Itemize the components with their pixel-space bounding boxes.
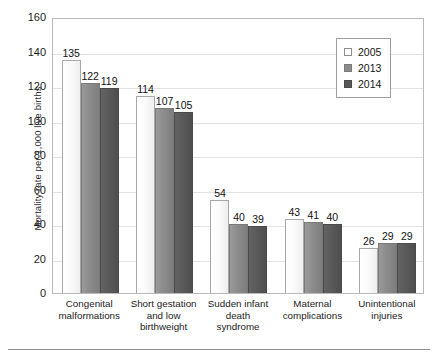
x-axis-label-line: malformations: [58, 310, 120, 321]
x-axis-category-label: Unintentionalinjuries: [350, 298, 424, 321]
x-axis-category-label: Congenitalmalformations: [52, 298, 126, 321]
y-axis-tick-label: 40: [4, 218, 46, 230]
legend-swatch-icon: [344, 80, 352, 88]
legend: 2005 2013 2014: [336, 38, 391, 98]
x-axis-label-line: injuries: [371, 310, 402, 321]
x-axis-label-line: death: [226, 310, 251, 321]
legend-item-label: 2005: [358, 46, 381, 58]
x-axis-category-label: Short gestationand lowbirthweight: [126, 298, 200, 333]
y-axis-tick-label: 140: [4, 46, 46, 58]
x-axis-label-line: Congenital: [66, 298, 113, 309]
x-axis-label-line: and low: [147, 310, 181, 321]
legend-item: 2014: [344, 76, 381, 92]
x-axis-category-label: Maternalcomplications: [275, 298, 349, 321]
x-axis-category-label: Sudden infantdeathsyndrome: [201, 298, 275, 333]
x-axis-label-line: Short gestation: [131, 298, 197, 309]
x-axis-category-labels: CongenitalmalformationsShort gestationan…: [52, 298, 424, 344]
y-axis-tick-label: 20: [4, 253, 46, 265]
x-axis-label-line: syndrome: [216, 321, 259, 332]
x-axis-label-line: birthweight: [140, 321, 187, 332]
legend-item-label: 2014: [358, 78, 381, 90]
legend-swatch-icon: [344, 64, 352, 72]
x-axis-label-line: Unintentional: [358, 298, 415, 309]
y-axis-tick-label: 60: [4, 184, 46, 196]
x-axis-label-line: Sudden infant: [208, 298, 268, 309]
y-axis-tick-label: 80: [4, 149, 46, 161]
bottom-divider: [8, 349, 430, 350]
x-axis-label-line: Maternal: [293, 298, 331, 309]
bar-chart-figure: Mortality rate per 1,000 live births 135…: [0, 0, 438, 358]
y-axis-tick-label: 0: [4, 287, 46, 299]
y-axis-tick-label: 120: [4, 80, 46, 92]
legend-item-label: 2013: [358, 62, 381, 74]
x-axis-label-line: complications: [283, 310, 342, 321]
legend-item: 2005: [344, 44, 381, 60]
y-axis-tick-label: 160: [4, 11, 46, 23]
y-axis-tick-label: 100: [4, 115, 46, 127]
legend-item: 2013: [344, 60, 381, 76]
legend-swatch-icon: [344, 48, 352, 56]
